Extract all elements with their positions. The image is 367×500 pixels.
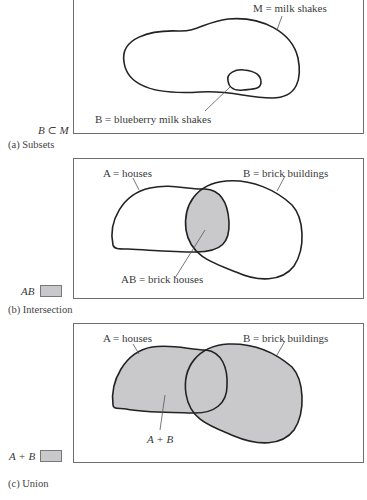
- legend-union-swatch: [40, 450, 62, 462]
- caption-c: (c) Union: [8, 478, 49, 490]
- label-b: B = brick buildings: [243, 332, 328, 344]
- union-diagram: [0, 0, 367, 500]
- label-a: A = houses: [103, 332, 152, 344]
- label-union: A + B: [147, 433, 173, 445]
- union-region-b: [185, 344, 302, 443]
- legend-union-label: A + B: [9, 450, 35, 462]
